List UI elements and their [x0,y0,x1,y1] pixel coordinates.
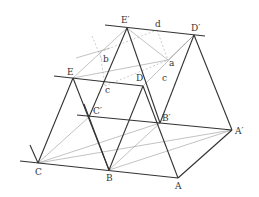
label-b-prime: B′ [162,113,171,123]
label-c-right: c [162,73,167,83]
label-b: b [103,54,109,64]
label-d-prime: D′ [191,23,200,33]
label-d: d [155,19,161,29]
diagram-canvas: E′ D′ d a b c c E D C′ B′ A′ C B A [0,0,259,197]
label-a: a [169,58,175,68]
point-labels: E′ D′ d a b c c E D C′ B′ A′ C B A [35,15,244,191]
label-a-prime: A′ [234,126,244,136]
label-c-prime: C′ [93,106,102,116]
main-lines [20,25,232,178]
label-e-prime: E′ [121,15,130,25]
label-d: D [136,73,143,83]
label-e: E [67,67,74,77]
label-c-top: c [105,85,110,95]
label-c: C [35,167,42,177]
geometry-diagram: E′ D′ d a b c c E D C′ B′ A′ C B A [0,0,259,197]
label-a-point: A [174,181,182,191]
label-b: B [106,173,113,183]
construction-lines [38,28,232,170]
